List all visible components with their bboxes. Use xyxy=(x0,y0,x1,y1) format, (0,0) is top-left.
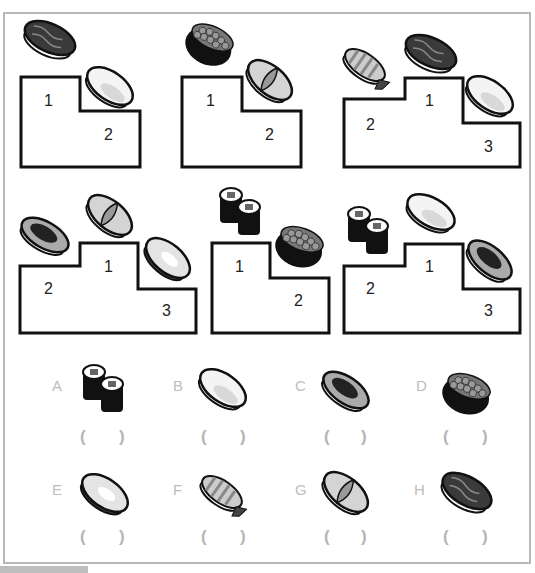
podium-3: 2 1 3 xyxy=(335,0,535,180)
answer-open-paren: ( xyxy=(201,527,207,547)
podium-1: 1 2 xyxy=(0,0,180,180)
ikura-gunkan-icon xyxy=(270,221,328,274)
ikura-gunkan-icon xyxy=(437,366,497,421)
answer-close-paren: ) xyxy=(119,427,125,447)
maki-rolls-icon xyxy=(348,207,388,254)
clam-nigiri-icon xyxy=(75,467,135,522)
squid-nigiri-icon xyxy=(400,187,461,240)
bottom-strip xyxy=(0,566,88,573)
place-1-label: 1 xyxy=(425,92,434,110)
place-2-label: 2 xyxy=(366,116,375,134)
answer-open-paren: ( xyxy=(80,527,86,547)
answer-close-paren: ) xyxy=(119,527,125,547)
shrimp-nigiri-icon xyxy=(196,470,256,520)
maki-rolls-icon xyxy=(75,362,135,417)
eel-nigiri-icon xyxy=(460,233,518,289)
answer-open-paren: ( xyxy=(324,427,330,447)
ikura-gunkan-icon xyxy=(179,17,239,73)
place-2-label: 2 xyxy=(104,126,113,144)
answer-open-paren: ( xyxy=(443,527,449,547)
place-3-label: 3 xyxy=(162,302,171,320)
answer-close-paren: ) xyxy=(240,527,246,547)
option-letter: D xyxy=(416,377,427,394)
squid-nigiri-icon xyxy=(459,69,519,124)
place-1-label: 1 xyxy=(235,258,244,276)
podium-2: 1 2 xyxy=(170,0,350,180)
eel-nigiri-icon xyxy=(14,211,74,262)
place-2-label: 2 xyxy=(44,280,53,298)
place-1-label: 1 xyxy=(44,92,53,110)
podium-5: 1 2 xyxy=(200,180,350,350)
option-letter: F xyxy=(173,481,182,498)
answer-close-paren: ) xyxy=(482,527,488,547)
place-1-label: 1 xyxy=(104,258,113,276)
place-2-label: 2 xyxy=(294,292,303,310)
scallop-nigiri-icon xyxy=(79,188,139,245)
place-1-label: 1 xyxy=(206,92,215,110)
option-letter: C xyxy=(295,377,306,394)
place-2-label: 2 xyxy=(366,280,375,298)
place-3-label: 3 xyxy=(484,302,493,320)
option-letter: G xyxy=(295,481,307,498)
answer-close-paren: ) xyxy=(240,427,246,447)
scallop-nigiri-icon xyxy=(239,53,299,110)
answer-open-paren: ( xyxy=(201,427,207,447)
tuna-nigiri-icon xyxy=(18,14,80,66)
podium-4: 2 1 3 xyxy=(0,180,210,350)
tuna-nigiri-icon xyxy=(437,469,497,519)
option-letter: E xyxy=(52,481,62,498)
option-letter: A xyxy=(52,377,62,394)
place-2-label: 2 xyxy=(265,126,274,144)
answer-close-paren: ) xyxy=(361,527,367,547)
answer-open-paren: ( xyxy=(324,527,330,547)
eel-nigiri-icon xyxy=(318,370,378,415)
shrimp-nigiri-icon xyxy=(338,43,396,94)
answer-open-paren: ( xyxy=(80,427,86,447)
answer-close-paren: ) xyxy=(482,427,488,447)
answer-open-paren: ( xyxy=(443,427,449,447)
place-1-label: 1 xyxy=(425,258,434,276)
squid-nigiri-icon xyxy=(79,60,139,115)
answer-close-paren: ) xyxy=(361,427,367,447)
place-3-label: 3 xyxy=(484,138,493,156)
scallop-nigiri-icon xyxy=(318,468,378,520)
tuna-nigiri-icon xyxy=(399,28,461,80)
clam-nigiri-icon xyxy=(137,231,197,288)
squid-nigiri-icon xyxy=(193,362,255,417)
podium-6: 2 1 3 xyxy=(335,180,535,350)
maki-rolls-icon xyxy=(220,188,260,235)
option-letter: B xyxy=(173,377,183,394)
option-letter: H xyxy=(414,481,425,498)
